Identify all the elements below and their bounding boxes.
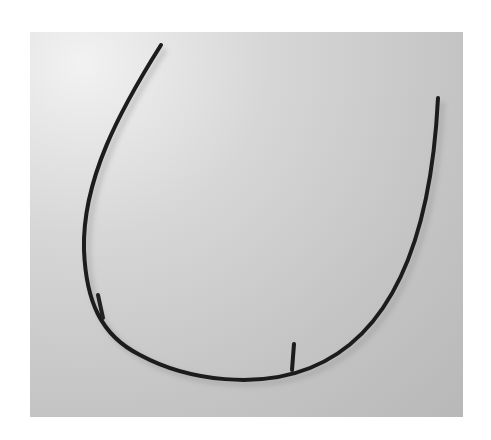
photo [30,32,463,417]
underwire-illustration [30,32,463,417]
wire-shadow [88,49,442,384]
wire-tab-right [292,344,294,370]
